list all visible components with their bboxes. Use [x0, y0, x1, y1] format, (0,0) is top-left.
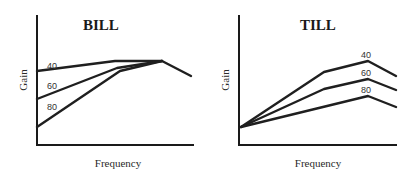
curve-label-60: 60 [361, 68, 371, 78]
curve-label-80: 80 [47, 102, 57, 112]
y-axis-label: Gain [17, 69, 29, 91]
chart-bill: BILL Gain Frequency 40 60 80 [17, 15, 194, 169]
chart-title: TILL [300, 17, 336, 33]
curve-60 [241, 79, 396, 127]
curve-label-40: 40 [361, 50, 371, 60]
axes [37, 15, 194, 145]
curve-label-60: 60 [47, 81, 57, 91]
chart-title: BILL [83, 17, 119, 33]
x-axis-label: Frequency [295, 157, 342, 169]
curve-label-40: 40 [47, 61, 57, 71]
figure: BILL Gain Frequency 40 60 80 TILL Gain F… [0, 0, 418, 175]
x-axis-label: Frequency [95, 157, 142, 169]
curve-label-80: 80 [361, 85, 371, 95]
chart-till: TILL Gain Frequency 40 60 80 [219, 15, 397, 169]
y-axis-label: Gain [219, 69, 231, 91]
